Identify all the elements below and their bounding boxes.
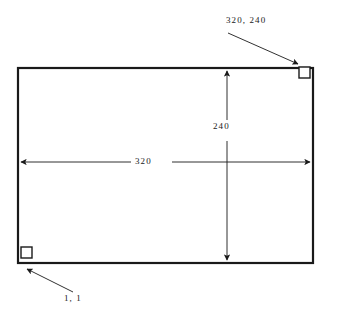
dimension-diagram <box>0 0 337 324</box>
height-dimension-label: 240 <box>210 120 233 133</box>
leader-line-bottom-left <box>27 269 73 292</box>
corner-min-label: 1, 1 <box>64 293 82 304</box>
bottom-left-corner-marker <box>21 247 32 258</box>
top-right-corner-marker <box>299 67 310 78</box>
width-dimension-label: 320 <box>131 156 156 167</box>
main-rectangle <box>18 68 313 263</box>
leader-line-top-right <box>228 33 298 64</box>
corner-max-label: 320, 240 <box>226 15 266 26</box>
